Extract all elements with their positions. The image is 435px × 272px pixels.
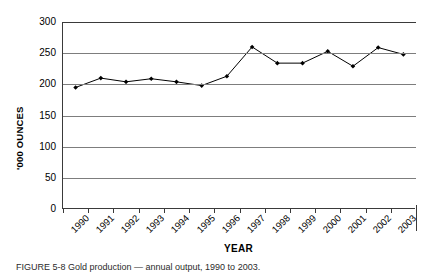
y-tick-label: 300 — [28, 17, 56, 27]
y-tick-label: 150 — [28, 111, 56, 121]
y-tick-label: 50 — [28, 173, 56, 183]
y-tick-label: 200 — [28, 79, 56, 89]
data-point-marker — [149, 76, 154, 81]
y-tick-label: 0 — [28, 204, 56, 214]
data-point-marker — [99, 76, 104, 81]
data-point-marker — [300, 61, 305, 66]
x-tick-mark — [416, 209, 417, 213]
gridline — [63, 178, 416, 179]
y-tick-label: 250 — [28, 48, 56, 58]
gridline — [63, 84, 416, 85]
gridline — [63, 116, 416, 117]
data-point-marker — [73, 85, 78, 90]
gridline — [63, 53, 416, 54]
gridline — [63, 22, 416, 23]
plot-area — [62, 22, 415, 209]
y-axis-tick-labels: 050100150200250300 — [28, 22, 56, 209]
figure-caption: FIGURE 5-8 Gold production — annual outp… — [16, 262, 426, 272]
figure-container: '000 OUNCES 050100150200250300 199019911… — [0, 0, 435, 272]
gridline — [63, 147, 416, 148]
y-tick-label: 100 — [28, 142, 56, 152]
x-axis-title: YEAR — [62, 243, 415, 254]
